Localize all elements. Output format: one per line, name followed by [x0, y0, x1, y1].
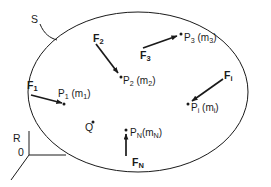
particle-dot-Pi [187, 103, 190, 106]
particle-dot-P1 [63, 103, 66, 106]
particle-label-Pi: Pi (mi) [191, 103, 219, 114]
force-vector-F2 [96, 44, 118, 73]
force-vector-F3 [143, 36, 177, 48]
particle-label-P3: P3 (m3) [184, 33, 216, 44]
origin-label: 0 [18, 147, 24, 158]
particle-dot-P3 [180, 33, 183, 36]
particle-label-Q: Q [85, 122, 93, 133]
surface-leader-line [40, 24, 57, 40]
particle-system-figure: S R 0 F1 F2 F3 Fi FN P1 (m1) P2 (m2) P3 … [0, 0, 271, 187]
force-label-F1: F1 [27, 80, 38, 93]
particle-label-PN: PN(mN) [130, 128, 162, 139]
surface-label: S [31, 14, 38, 25]
force-label-F2: F2 [93, 33, 104, 46]
frame-axis-diagonal [11, 155, 29, 180]
particle-label-P1: P1 (m1) [58, 89, 90, 100]
particle-dot-PN [125, 129, 128, 132]
force-label-Fi: Fi [224, 70, 233, 83]
particle-label-P2: P2 (m2) [123, 76, 155, 87]
force-vector-Fi [192, 79, 223, 101]
force-label-F3: F3 [140, 50, 151, 63]
reference-frame-label: R [13, 133, 21, 144]
force-label-FN: FN [132, 157, 144, 170]
